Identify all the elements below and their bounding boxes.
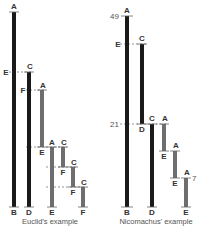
label-f: F [21, 86, 26, 95]
segment-cf-1 [61, 147, 65, 167]
nicomachus-example: 49 21 7 A B E C D C D A E A E A E Nicoma… [110, 6, 197, 226]
label-d: D [139, 125, 145, 134]
label-a: A [173, 141, 179, 150]
segment-ae-1 [40, 90, 44, 147]
label-c: C [71, 158, 77, 167]
label-e: E [172, 179, 178, 188]
label-c: C [139, 34, 145, 43]
label-c: C [27, 62, 33, 71]
label-f: F [61, 168, 66, 177]
segment-cf-2 [71, 167, 75, 187]
label-e: E [39, 148, 45, 157]
value-7: 7 [192, 174, 197, 183]
segment-ab [12, 12, 16, 207]
label-c: C [81, 178, 87, 187]
segment-ae-1 [162, 124, 166, 151]
segment-ae-3 [184, 178, 188, 207]
segment-cd [27, 72, 31, 207]
label-e: E [49, 208, 55, 217]
value-21: 21 [110, 120, 119, 129]
label-d: D [26, 208, 32, 217]
label-e: E [161, 152, 167, 161]
label-c: C [61, 138, 67, 147]
euclid-example: A B E C D F A E A E C F C F C F Euclid's… [3, 2, 88, 226]
segment-cd-1 [140, 44, 144, 124]
value-49: 49 [110, 12, 119, 21]
segment-ae-2 [173, 151, 177, 178]
label-a: A [124, 6, 130, 15]
segment-cf-3 [81, 187, 85, 207]
label-a: A [40, 81, 46, 90]
label-d: D [149, 208, 155, 217]
label-e: E [183, 208, 189, 217]
euclid-caption: Euclid's example [22, 217, 78, 226]
euclidean-algorithm-diagram: A B E C D F A E A E C F C F C F Euclid's… [0, 0, 200, 226]
label-c: C [149, 114, 155, 123]
label-e: E [3, 68, 9, 77]
segment-cd-2 [150, 124, 154, 207]
segment-ab [125, 16, 129, 207]
label-a: A [162, 114, 168, 123]
label-a: A [11, 2, 17, 11]
nicomachus-caption: Nicomachus' example [119, 217, 192, 226]
segment-ae-2 [50, 147, 54, 207]
label-e: E [115, 40, 121, 49]
label-f: F [81, 208, 86, 217]
label-b: B [11, 208, 17, 217]
label-a: A [184, 168, 190, 177]
label-f: F [71, 188, 76, 197]
label-a: A [49, 138, 55, 147]
label-b: B [124, 208, 130, 217]
